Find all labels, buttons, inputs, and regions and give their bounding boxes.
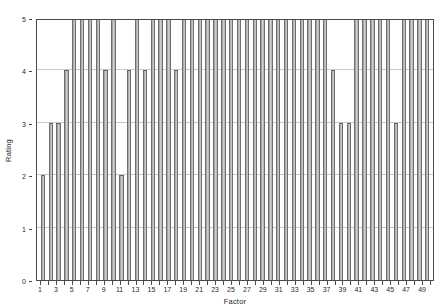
x-axis-tick-label: 33 <box>291 286 299 293</box>
x-axis-tick-mark <box>40 281 41 285</box>
y-axis-tick-label: 2 <box>22 173 26 180</box>
bar[interactable] <box>213 19 217 280</box>
bar[interactable] <box>417 19 421 280</box>
x-axis-tick-mark <box>342 281 343 285</box>
y-axis-tick-mark <box>29 229 32 230</box>
bar[interactable] <box>151 19 155 280</box>
bar-slot <box>384 20 392 280</box>
bar[interactable] <box>323 19 327 280</box>
bar[interactable] <box>268 19 272 280</box>
bar-slot <box>400 20 408 280</box>
bar[interactable] <box>292 19 296 280</box>
bar[interactable] <box>103 70 107 280</box>
bar-slot <box>125 20 133 280</box>
bar[interactable] <box>158 19 162 280</box>
bar-slot <box>274 20 282 280</box>
bar[interactable] <box>143 70 147 280</box>
bar[interactable] <box>80 19 84 280</box>
bar[interactable] <box>205 19 209 280</box>
bar-slot <box>94 20 102 280</box>
x-axis-tick-mark <box>335 281 336 285</box>
bar[interactable] <box>370 19 374 280</box>
bars-container <box>37 20 433 280</box>
x-axis-tick-mark <box>422 281 423 285</box>
x-axis-tick-mark <box>191 281 192 285</box>
y-axis-tick-labels: 012345 <box>0 19 32 281</box>
bar[interactable] <box>402 19 406 280</box>
bar-slot <box>423 20 431 280</box>
x-axis-tick-label: 7 <box>86 286 90 293</box>
bar[interactable] <box>300 19 304 280</box>
bar[interactable] <box>276 19 280 280</box>
x-axis-tick-mark <box>223 281 224 285</box>
bar[interactable] <box>88 19 92 280</box>
x-axis-tick-mark <box>366 281 367 285</box>
x-axis-tick-label: 49 <box>418 286 426 293</box>
bar[interactable] <box>409 19 413 280</box>
x-axis-tick-mark <box>406 281 407 285</box>
x-axis-tick-mark <box>319 281 320 285</box>
bar[interactable] <box>362 19 366 280</box>
bar[interactable] <box>425 19 429 280</box>
y-axis-tick-label: 1 <box>22 225 26 232</box>
bar[interactable] <box>284 19 288 280</box>
bar[interactable] <box>245 19 249 280</box>
bar[interactable] <box>64 70 68 280</box>
bar[interactable] <box>394 123 398 280</box>
x-axis-tick-mark <box>247 281 248 285</box>
x-axis-tick-label: 37 <box>323 286 331 293</box>
bar-slot <box>172 20 180 280</box>
x-axis-tick-label: 15 <box>148 286 156 293</box>
x-axis-tick-mark <box>120 281 121 285</box>
x-axis-tick-mark <box>80 281 81 285</box>
bar[interactable] <box>331 70 335 280</box>
bar-slot <box>196 20 204 280</box>
bar[interactable] <box>347 123 351 280</box>
x-axis-tick-label: 21 <box>195 286 203 293</box>
bar[interactable] <box>182 19 186 280</box>
x-axis-tick-label: 31 <box>275 286 283 293</box>
bar[interactable] <box>253 19 257 280</box>
bar[interactable] <box>237 19 241 280</box>
bar[interactable] <box>354 19 358 280</box>
x-axis-tick-label: 19 <box>179 286 187 293</box>
bar[interactable] <box>127 70 131 280</box>
bar[interactable] <box>315 19 319 280</box>
bar[interactable] <box>339 123 343 280</box>
x-axis-tick-mark <box>207 281 208 285</box>
bar[interactable] <box>198 19 202 280</box>
bar-slot <box>266 20 274 280</box>
bar-slot <box>141 20 149 280</box>
bar[interactable] <box>260 19 264 280</box>
x-axis-tick-label: 25 <box>227 286 235 293</box>
bar-slot <box>251 20 259 280</box>
bar[interactable] <box>174 70 178 280</box>
bar-slot <box>102 20 110 280</box>
bar[interactable] <box>41 175 45 280</box>
bar[interactable] <box>72 19 76 280</box>
x-axis-tick-mark <box>167 281 168 285</box>
bar[interactable] <box>56 123 60 280</box>
bar[interactable] <box>229 19 233 280</box>
bar[interactable] <box>119 175 123 280</box>
bar[interactable] <box>111 19 115 280</box>
x-axis-tick-label: 41 <box>354 286 362 293</box>
y-axis-tick-mark <box>29 176 32 177</box>
bar[interactable] <box>378 19 382 280</box>
bar-slot <box>408 20 416 280</box>
bar[interactable] <box>386 19 390 280</box>
y-axis-tick-mark <box>29 19 32 20</box>
x-axis-tick-mark <box>398 281 399 285</box>
bar-slot <box>329 20 337 280</box>
y-axis-tick-label: 0 <box>22 278 26 285</box>
x-axis-tick-mark <box>255 281 256 285</box>
x-axis-tick-label: 23 <box>211 286 219 293</box>
bar[interactable] <box>135 19 139 280</box>
bar[interactable] <box>307 19 311 280</box>
bar[interactable] <box>221 19 225 280</box>
bar[interactable] <box>166 19 170 280</box>
x-axis-tick-mark <box>136 281 137 285</box>
bar[interactable] <box>190 19 194 280</box>
bar[interactable] <box>96 19 100 280</box>
bar[interactable] <box>49 123 53 280</box>
